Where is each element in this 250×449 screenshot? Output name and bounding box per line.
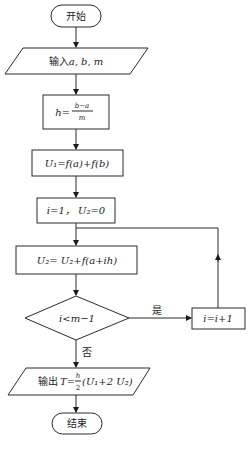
output-node: 输出 T= h 2 (U₁+2 U₂) bbox=[8, 368, 150, 395]
output-prefix: 输出 bbox=[38, 375, 58, 387]
flowchart: 开始 输入a, b, m h= b−a m U₁=f(a)+f(b) i=1， … bbox=[0, 0, 250, 449]
output-denominator: 2 bbox=[76, 384, 80, 392]
output-numerator: h bbox=[76, 372, 81, 380]
step-u2-node: U₂= U₂+f(a+ih) bbox=[16, 246, 137, 274]
yes-label: 是 bbox=[152, 305, 162, 316]
start-terminal: 开始 bbox=[51, 5, 101, 27]
step-u1-node: U₁=f(a)+f(b) bbox=[32, 150, 123, 176]
end-label: 结束 bbox=[67, 417, 87, 429]
increment-label: i=i+1 bbox=[203, 313, 233, 324]
output-rest: (U₁+2 U₂) bbox=[82, 376, 133, 387]
input-prefix: 输入 bbox=[49, 55, 69, 67]
increment-node: i=i+1 bbox=[192, 308, 245, 329]
end-terminal: 结束 bbox=[52, 413, 102, 434]
start-label: 开始 bbox=[66, 10, 86, 22]
decision-label: i<m−1 bbox=[59, 313, 95, 324]
u2-label: U₂= U₂+f(a+ih) bbox=[37, 255, 117, 266]
h-lhs: h= bbox=[55, 107, 70, 118]
h-denominator: m bbox=[79, 114, 86, 122]
no-label: 否 bbox=[82, 347, 92, 358]
input-node: 输入a, b, m bbox=[5, 48, 148, 74]
init-node: i=1， U₂=0 bbox=[37, 198, 115, 223]
output-lhs: T= bbox=[60, 376, 75, 387]
input-vars: a, b, m bbox=[69, 56, 104, 67]
decision-node: i<m−1 bbox=[25, 296, 129, 340]
svg-text:输入a, b, m: 输入a, b, m bbox=[49, 55, 104, 67]
init-label: i=1， U₂=0 bbox=[47, 205, 106, 216]
u1-label: U₁=f(a)+f(b) bbox=[45, 158, 110, 169]
h-numerator: b−a bbox=[75, 102, 90, 110]
step-h-node: h= b−a m bbox=[43, 95, 109, 129]
